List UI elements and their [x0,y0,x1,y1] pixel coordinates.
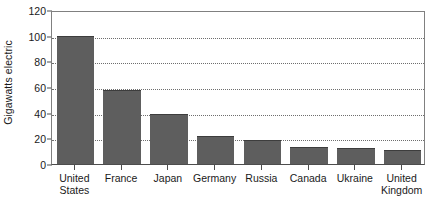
x-tick-mark [167,165,168,170]
bar [150,114,187,164]
x-tick-label: Japan [145,172,192,184]
bar [384,150,421,164]
x-tick-label-line: Kingdom [378,184,425,196]
x-tick-mark [121,165,122,170]
y-tick-label: 20 [16,133,46,145]
x-tick-label: UnitedStates [51,172,98,196]
bars-group [52,12,424,164]
plot-area [51,11,425,165]
y-tick-label: 60 [16,82,46,94]
y-tick-label: 80 [16,56,46,68]
x-tick-label: Russia [238,172,285,184]
bar [57,36,94,164]
x-tick-label-line: States [51,184,98,196]
y-tick-label: 0 [16,159,46,171]
x-tick-label-line: United [378,172,425,184]
x-tick-label-line: United [51,172,98,184]
x-tick-mark [261,165,262,170]
x-tick-label: Canada [285,172,332,184]
x-axis-tick-marks [51,165,425,171]
x-tick-label-line: France [98,172,145,184]
y-axis-title: Gigawatts electric [1,0,15,165]
y-tick-label: 100 [16,31,46,43]
y-tick-label: 40 [16,108,46,120]
bar [197,136,234,164]
x-tick-mark [74,165,75,170]
x-tick-mark [354,165,355,170]
x-tick-label-line: Japan [145,172,192,184]
x-tick-label-line: Germany [191,172,238,184]
y-tick-label: 120 [16,5,46,17]
bar [337,148,374,164]
bar [103,90,140,164]
x-tick-label: Ukraine [332,172,379,184]
x-tick-label: UnitedKingdom [378,172,425,196]
y-axis-tick-labels: 020406080100120 [16,11,46,165]
x-tick-label-line: Canada [285,172,332,184]
x-tick-label: Germany [191,172,238,184]
x-tick-label: France [98,172,145,184]
x-tick-mark [401,165,402,170]
bar-chart-figure: Gigawatts electric 020406080100120 Unite… [0,0,435,210]
x-axis-tick-labels: UnitedStatesFranceJapanGermanyRussiaCana… [51,172,425,206]
x-tick-label-line: Ukraine [332,172,379,184]
x-tick-mark [308,165,309,170]
x-tick-label-line: Russia [238,172,285,184]
x-tick-mark [214,165,215,170]
bar [244,140,281,164]
bar [290,147,327,164]
